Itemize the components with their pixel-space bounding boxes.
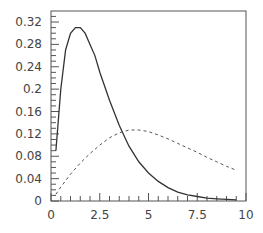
y-axis: 00.040.080.120.160.20.240.280.32 — [15, 15, 59, 208]
x-tick-label: 0 — [47, 208, 55, 222]
y-tick-label: 0.32 — [15, 15, 42, 29]
x-axis: 02.557.510 — [47, 193, 253, 222]
x-tick-label: 7.5 — [188, 208, 207, 222]
y-tick-label: 0.24 — [15, 60, 42, 74]
x-tick-label: 2.5 — [90, 208, 109, 222]
x-tick-label: 5 — [145, 208, 153, 222]
y-tick-label: 0.12 — [15, 127, 42, 141]
dashed-series-line — [56, 130, 236, 194]
y-tick-label: 0.28 — [15, 37, 42, 51]
y-tick-label: 0.16 — [15, 105, 42, 119]
y-tick-label: 0.04 — [15, 172, 42, 186]
plot-lines — [56, 28, 236, 200]
solid-series-line — [56, 28, 236, 200]
y-tick-label: 0.08 — [15, 149, 42, 163]
chart: 00.040.080.120.160.20.240.280.32 02.557.… — [0, 0, 263, 233]
y-tick-label: 0 — [34, 194, 42, 208]
y-tick-label: 0.2 — [23, 82, 42, 96]
x-tick-label: 10 — [238, 208, 253, 222]
